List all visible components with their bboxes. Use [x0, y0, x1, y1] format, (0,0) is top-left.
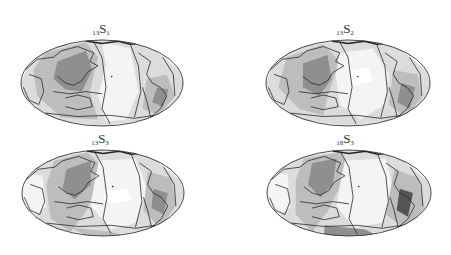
map-panel-13S1: [21, 40, 183, 126]
mode-degree: 3: [350, 139, 354, 147]
center-marker: [112, 186, 114, 188]
mode-overtone-number: 13: [336, 29, 343, 37]
center-marker: [357, 76, 359, 78]
center-marker: [111, 76, 113, 78]
maps-canvas: [0, 0, 451, 255]
map-panel-18S3: [267, 150, 431, 236]
panel-label-18S3: 18S3: [336, 132, 354, 147]
mode-overtone-number: 13: [91, 139, 98, 147]
mode-overtone-number: 13: [92, 29, 99, 37]
map-panel-13S3: [22, 150, 184, 236]
map-panel-13S2: [266, 40, 430, 126]
panel-label-13S3: 13S3: [91, 132, 109, 147]
mode-degree: 2: [350, 29, 354, 37]
mode-degree: 3: [105, 139, 109, 147]
mode-overtone-number: 18: [336, 139, 343, 147]
center-marker: [358, 186, 360, 188]
panel-label-13S2: 13S2: [336, 22, 354, 37]
mode-degree: 1: [106, 29, 110, 37]
panel-label-13S1: 13S1: [92, 22, 110, 37]
